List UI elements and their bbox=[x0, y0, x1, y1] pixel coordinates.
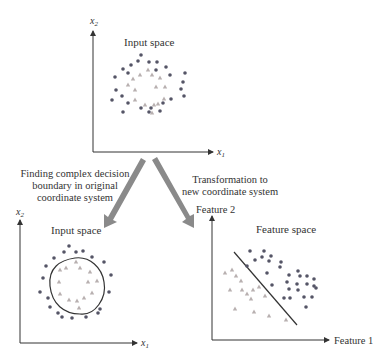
dot-point bbox=[107, 290, 111, 294]
dot-point bbox=[52, 256, 56, 260]
triangle-point bbox=[251, 288, 255, 292]
triangle-point bbox=[150, 73, 154, 77]
top-x-axis-label: x1 bbox=[216, 146, 225, 159]
dot-point bbox=[179, 87, 183, 91]
dot-point bbox=[90, 255, 94, 259]
bottom-left-panel: x2 x1 Input space bbox=[15, 206, 149, 350]
dot-point bbox=[126, 71, 130, 75]
dot-point bbox=[154, 68, 158, 72]
left-caption-line: Finding complex decision bbox=[20, 168, 130, 180]
dot-point bbox=[270, 283, 274, 287]
triangle-point bbox=[133, 98, 137, 102]
complex-decision-boundary bbox=[50, 258, 105, 314]
triangle-point bbox=[233, 307, 237, 311]
triangle-point bbox=[126, 83, 130, 87]
bl-panel-title: Input space bbox=[51, 224, 102, 236]
triangle-point bbox=[234, 274, 238, 278]
dot-point bbox=[279, 260, 283, 264]
triangle-point bbox=[90, 291, 94, 295]
dot-point bbox=[44, 264, 48, 268]
dot-point bbox=[56, 311, 60, 315]
dot-point bbox=[60, 315, 64, 319]
dot-point bbox=[282, 296, 286, 300]
triangle-point bbox=[228, 288, 232, 292]
dot-point bbox=[298, 274, 302, 278]
right-caption-line: new coordinate system bbox=[175, 186, 285, 198]
triangle-point bbox=[57, 280, 61, 284]
br-scatter bbox=[223, 249, 318, 321]
triangle-point bbox=[249, 297, 253, 301]
br-x-axis-label: Feature 1 bbox=[334, 335, 373, 346]
triangle-point bbox=[82, 296, 86, 300]
triangle-point bbox=[154, 85, 158, 89]
triangle-point bbox=[74, 260, 78, 264]
dot-point bbox=[62, 250, 66, 254]
top-y-axis-label: x2 bbox=[89, 15, 98, 28]
dot-point bbox=[129, 63, 133, 67]
dot-point bbox=[278, 265, 282, 269]
dot-point bbox=[305, 274, 309, 278]
dot-point bbox=[38, 290, 42, 294]
triangle-point bbox=[67, 298, 71, 302]
dot-point bbox=[169, 97, 173, 101]
top-panel: x2 x1 Input space bbox=[89, 15, 225, 159]
triangle-point bbox=[64, 266, 68, 270]
triangle-point bbox=[223, 271, 227, 275]
triangle-point bbox=[284, 318, 288, 322]
dot-point bbox=[267, 259, 271, 263]
dot-point bbox=[114, 88, 118, 92]
dot-point bbox=[168, 73, 172, 77]
bl-y-axis-label: x2 bbox=[15, 206, 24, 219]
dot-point bbox=[260, 255, 264, 259]
bottom-right-panel: Feature 2 Feature 1 Feature space bbox=[196, 204, 373, 346]
triangle-point bbox=[58, 292, 62, 296]
dot-point bbox=[265, 271, 269, 275]
triangle-point bbox=[75, 299, 79, 303]
dot-point bbox=[155, 60, 159, 64]
triangle-point bbox=[131, 77, 135, 81]
dot-point bbox=[67, 244, 71, 248]
dot-point bbox=[46, 296, 50, 300]
dot-point bbox=[296, 269, 300, 273]
dot-point bbox=[139, 106, 143, 110]
dot-point bbox=[164, 65, 168, 69]
dot-point bbox=[136, 59, 140, 63]
dot-point bbox=[305, 282, 309, 286]
dot-point bbox=[295, 282, 299, 286]
triangle-point bbox=[143, 103, 147, 107]
triangle-point bbox=[240, 288, 244, 292]
dot-point bbox=[70, 316, 74, 320]
dot-point bbox=[110, 98, 114, 102]
right-caption-line: Transformation to bbox=[175, 174, 285, 186]
triangle-point bbox=[77, 306, 81, 310]
left-caption-line: coordinate system bbox=[20, 192, 130, 204]
triangle-point bbox=[162, 97, 166, 101]
triangle-point bbox=[156, 102, 160, 106]
top-scatter bbox=[110, 53, 187, 114]
dot-point bbox=[121, 110, 125, 114]
dot-point bbox=[41, 276, 45, 280]
dot-point bbox=[287, 273, 291, 277]
dot-point bbox=[262, 249, 266, 253]
dot-point bbox=[120, 94, 124, 98]
triangle-point bbox=[245, 292, 249, 296]
dot-point bbox=[139, 53, 143, 57]
triangle-point bbox=[95, 279, 99, 283]
triangle-point bbox=[257, 285, 261, 289]
dot-point bbox=[149, 106, 153, 110]
dot-point bbox=[310, 295, 314, 299]
dot-point bbox=[304, 305, 308, 309]
triangle-point bbox=[263, 294, 267, 298]
dot-point bbox=[248, 249, 252, 253]
right-caption: Transformation to new coordinate system bbox=[175, 174, 285, 198]
dot-point bbox=[102, 260, 106, 264]
dot-point bbox=[96, 311, 100, 315]
br-y-axis-label: Feature 2 bbox=[196, 204, 235, 215]
triangle-point bbox=[133, 88, 137, 92]
dot-point bbox=[81, 249, 85, 253]
triangle-point bbox=[86, 280, 90, 284]
triangle-point bbox=[158, 76, 162, 80]
top-panel-title: Input space bbox=[124, 36, 175, 48]
triangle-point bbox=[267, 314, 271, 318]
triangle-point bbox=[163, 85, 167, 89]
